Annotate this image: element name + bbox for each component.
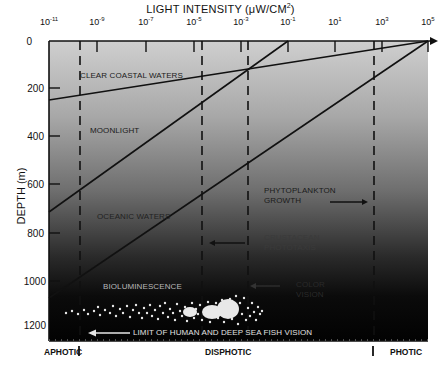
label-phytoplankton-growth: PHYTOPLANKTON GROWTH [264,186,336,206]
label-color-vision: COLOR VISION [296,280,325,300]
label-oceanic-waters: OCEANIC WATERS [97,212,170,222]
label-bioluminescence: BIOLUMINESCENCE [103,282,182,292]
label-limit-of-vision: LIMIT OF HUMAN AND DEEP SEA FISH VISION [133,328,312,338]
y-tick: 400 [16,131,44,142]
label-clear-coastal-waters: CLEAR COASTAL WATERS [80,71,183,81]
plot-area [0,0,441,366]
label-moonlight: MOONLIGHT [90,126,139,136]
label-crustacean-phototaxis: CRUSTACEAN PHOTOTAXIS [264,233,320,253]
x-axis-arrow-icon [430,37,438,45]
depth-gradient-background [49,41,428,341]
zone-photic: PHOTIC [390,347,422,357]
zone-disphotic: DISPHOTIC [205,347,251,357]
y-tick: 200 [16,83,44,94]
zone-aphotic: APHOTIC [44,347,82,357]
y-tick: 1200 [18,320,46,331]
y-tick: 0 [12,36,32,47]
y-axis-label: DEPTH (m) [15,161,27,231]
y-tick: 1000 [18,276,46,287]
